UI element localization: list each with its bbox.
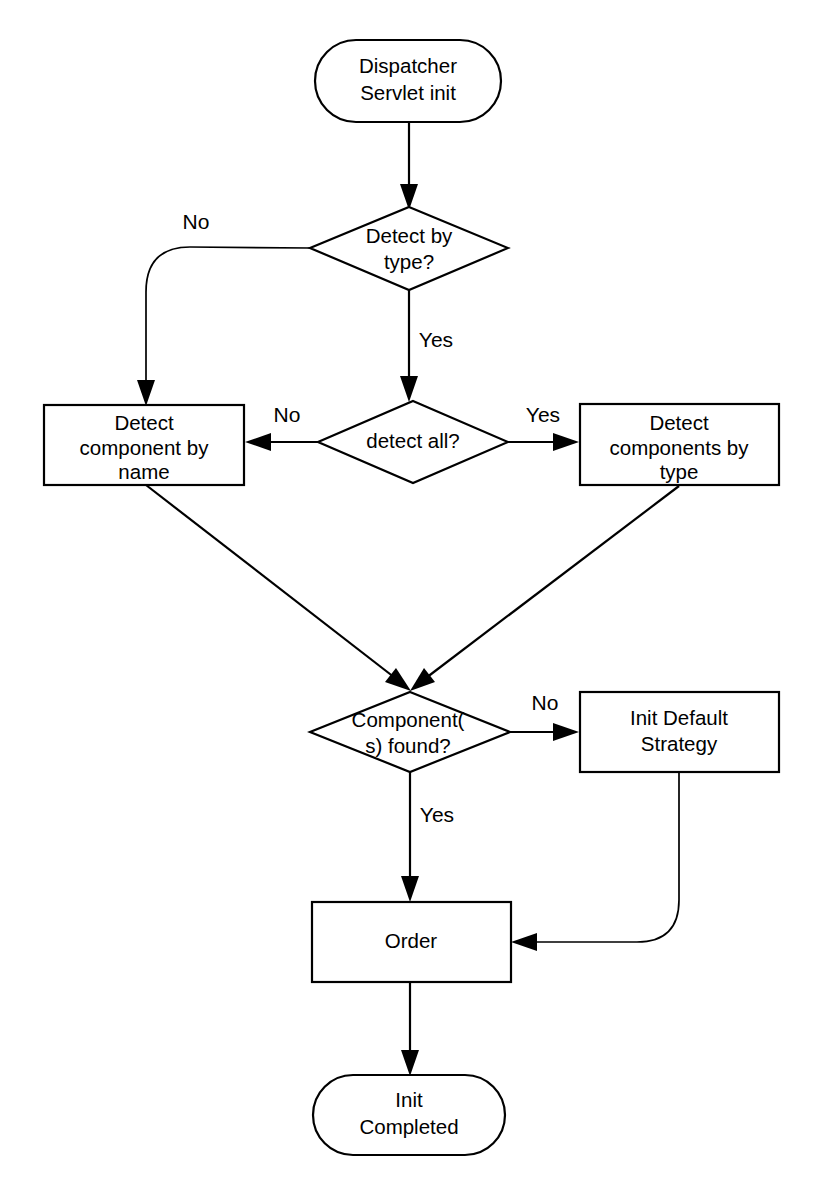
node-order[interactable]: Order [312, 902, 511, 982]
edge-detect-all-no [245, 433, 318, 451]
detect-components-by-type-label-line2: components by [609, 436, 749, 459]
node-detect-component-by-name[interactable]: Detect component by name [44, 405, 244, 485]
edge-label-detect-all-yes: Yes [526, 403, 560, 426]
node-detect-by-type[interactable]: Detect by type? [310, 207, 508, 290]
components-found-label-line2: s) found? [365, 734, 450, 757]
node-components-found[interactable]: Component( s) found? [310, 692, 510, 772]
detect-component-by-name-label-line1: Detect [114, 411, 174, 434]
node-start[interactable]: Dispatcher Servlet init [315, 40, 501, 122]
node-detect-all[interactable]: detect all? [318, 401, 508, 483]
detect-components-by-type-label-line3: type [660, 460, 699, 483]
detect-by-type-label-line2: type? [384, 250, 434, 273]
edge-start-to-detect-by-type [400, 122, 418, 210]
edge-label-detect-by-type-no: No [183, 210, 210, 233]
components-found-label-line1: Component( [352, 708, 465, 731]
edge-components-found-no [510, 723, 579, 741]
edge-detect-by-type-no [137, 247, 310, 406]
edge-init-default-strategy-to-order [511, 772, 679, 951]
components-found-diamond-shape [310, 692, 510, 772]
detect-all-label: detect all? [366, 429, 459, 452]
detect-component-by-name-label-line2: component by [80, 436, 210, 459]
order-label: Order [385, 929, 438, 952]
edge-label-components-found-yes: Yes [420, 803, 454, 826]
end-label-line1: Init [395, 1088, 423, 1111]
edge-name-to-components-found [146, 485, 411, 691]
start-label-line2: Servlet init [360, 81, 456, 104]
edge-detect-all-yes [508, 433, 579, 451]
detect-by-type-diamond-shape [310, 207, 508, 290]
edge-components-found-yes [401, 772, 419, 902]
detect-component-by-name-label-line3: name [118, 460, 169, 483]
detect-components-by-type-label-line1: Detect [649, 411, 709, 434]
node-end[interactable]: Init Completed [313, 1075, 505, 1155]
edge-detect-by-type-yes [400, 290, 418, 402]
detect-by-type-label-line1: Detect by [366, 224, 453, 247]
edge-type-to-components-found [410, 486, 679, 691]
edge-label-detect-by-type-yes: Yes [419, 328, 453, 351]
start-label-line1: Dispatcher [359, 54, 457, 77]
node-detect-components-by-type[interactable]: Detect components by type [580, 404, 779, 485]
edge-label-detect-all-no: No [274, 403, 301, 426]
edge-label-components-found-no: No [532, 691, 559, 714]
end-label-line2: Completed [359, 1115, 458, 1138]
node-init-default-strategy[interactable]: Init Default Strategy [580, 692, 779, 772]
edge-order-to-end [401, 982, 419, 1076]
init-default-strategy-label-line2: Strategy [641, 732, 718, 755]
init-default-strategy-label-line1: Init Default [630, 706, 728, 729]
flowchart-svg: Dispatcher Servlet init Detect by type? … [0, 0, 820, 1190]
flowchart-canvas: Dispatcher Servlet init Detect by type? … [0, 0, 820, 1190]
